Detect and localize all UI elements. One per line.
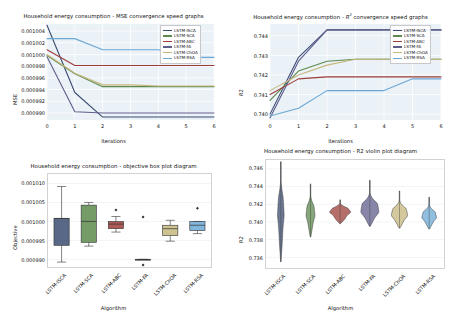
r2-convergence-title: Household energy consumption - R2 conver…: [227, 13, 454, 20]
objective-plot-area: [47, 173, 212, 268]
violin-LSTM-ISCA[interactable]: [278, 162, 285, 262]
x-tick-label: 2: [95, 123, 111, 129]
x-tick-label: 1: [67, 123, 83, 129]
y-tick-label: 0.001002: [0, 40, 48, 46]
y-tick-label: 0.742: [227, 201, 266, 207]
legend-color-swatch: [393, 46, 402, 47]
legend-color-swatch: [163, 46, 172, 47]
violin-plot-area: [265, 159, 445, 269]
legend-color-swatch: [163, 52, 172, 53]
y-tick-label: 0.740: [227, 111, 271, 117]
x-tick-label: LSTM-FA: [342, 273, 376, 307]
y-tick-label: 0.740: [227, 219, 266, 225]
mse-convergence-title: Household energy consumption - MSE conve…: [0, 13, 227, 19]
r2-title-suffix: convergence speed graphs: [352, 14, 428, 20]
legend-color-swatch: [393, 35, 402, 36]
objective-boxplot-panel: Household energy consumption - objective…: [0, 158, 227, 336]
x-tick-label: LSTM-ABC: [312, 273, 346, 307]
legend-color-swatch: [163, 30, 172, 31]
violin-LSTM-ChOA[interactable]: [391, 191, 407, 228]
violin-LSTM-RSA[interactable]: [422, 197, 437, 229]
legend-item[interactable]: LSTM-RSA: [393, 55, 428, 61]
box-LSTM-ChOA[interactable]: [163, 220, 178, 241]
legend-color-swatch: [393, 52, 402, 53]
y-tick-label: 0.742: [227, 72, 271, 78]
y-tick-label: 0.000994: [0, 87, 48, 93]
y-tick-label: 0.000996: [0, 75, 48, 81]
y-tick-label: 0.000998: [0, 63, 48, 69]
legend-label: LSTM-RSA: [174, 55, 195, 61]
y-tick-label: 0.000990: [0, 110, 48, 116]
mse-legend: LSTM-ISCALSTM-SCALSTM-ABCLSTM-FALSTM-ChO…: [160, 25, 201, 64]
y-tick-label: 0.736: [227, 255, 266, 261]
legend-color-swatch: [393, 41, 402, 42]
x-tick-label: 0: [262, 123, 278, 129]
box-LSTM-RSA[interactable]: [190, 207, 205, 234]
x-tick-label: LSTM-SCA: [282, 273, 316, 307]
mse-x-axis-label: Iterations: [0, 138, 227, 144]
figure-canvas: Household energy consumption - MSE conve…: [0, 0, 454, 336]
violin-LSTM-FA[interactable]: [361, 180, 379, 226]
x-tick-label: 6: [206, 123, 222, 129]
y-tick-label: 0.738: [227, 237, 266, 243]
y-tick-label: 0.000990: [0, 257, 48, 263]
r2-legend: LSTM-ISCALSTM-SCALSTM-ABCLSTM-FALSTM-ChO…: [390, 25, 431, 64]
x-tick-label: 3: [348, 123, 364, 129]
box-LSTM-ISCA[interactable]: [54, 187, 69, 263]
violin-LSTM-ABC[interactable]: [330, 200, 351, 224]
y-tick-label: 0.001000: [0, 52, 48, 58]
legend-label: LSTM-RSA: [404, 55, 425, 61]
y-tick-label: 0.743: [227, 53, 271, 59]
y-tick-label: 0.741: [227, 92, 271, 98]
legend-color-swatch: [163, 35, 172, 36]
r2-title-prefix: Household energy consumption -: [253, 14, 346, 20]
x-tick-label: 3: [123, 123, 139, 129]
legend-color-swatch: [393, 58, 402, 59]
legend-item[interactable]: LSTM-RSA: [163, 55, 198, 61]
violin-LSTM-SCA[interactable]: [306, 184, 315, 237]
legend-color-swatch: [163, 58, 172, 59]
legend-color-swatch: [393, 30, 402, 31]
box-LSTM-ABC[interactable]: [108, 209, 123, 233]
y-tick-label: 0.001005: [0, 199, 48, 205]
x-tick-label: LSTM-ISCA: [252, 273, 286, 307]
r2-violin-title: Household energy consumption - R2 violin…: [227, 148, 454, 154]
r2-violin-panel: Household energy consumption - R2 violin…: [227, 138, 454, 336]
x-tick-label: 2: [319, 123, 335, 129]
y-tick-label: 0.744: [227, 183, 266, 189]
x-tick-label: 5: [178, 123, 194, 129]
r2-convergence-panel: Household energy consumption - R2 conver…: [227, 0, 454, 158]
legend-color-swatch: [163, 41, 172, 42]
objective-x-axis-label: Algorithm: [0, 305, 227, 311]
y-tick-label: 0.001004: [0, 28, 48, 34]
x-tick-label: 4: [150, 123, 166, 129]
mse-convergence-panel: Household energy consumption - MSE conve…: [0, 0, 227, 158]
violin-x-axis-label: Algorithm: [227, 305, 454, 311]
y-tick-label: 0.000992: [0, 98, 48, 104]
y-tick-label: 0.000995: [0, 238, 48, 244]
x-tick-label: 1: [291, 123, 307, 129]
x-tick-label: 5: [405, 123, 421, 129]
y-tick-label: 0.001010: [0, 180, 48, 186]
objective-boxplot-title: Household energy consumption - objective…: [0, 163, 227, 169]
box-LSTM-SCA[interactable]: [81, 202, 96, 246]
y-tick-label: 0.001000: [0, 219, 48, 225]
y-tick-label: 0.744: [227, 33, 271, 39]
x-tick-label: 0: [39, 123, 55, 129]
x-tick-label: LSTM-RSA: [402, 273, 436, 307]
x-tick-label: LSTM-ChOA: [372, 273, 406, 307]
x-tick-label: 6: [433, 123, 449, 129]
box-LSTM-FA[interactable]: [135, 215, 150, 266]
y-tick-label: 0.746: [227, 165, 266, 171]
x-tick-label: 4: [376, 123, 392, 129]
